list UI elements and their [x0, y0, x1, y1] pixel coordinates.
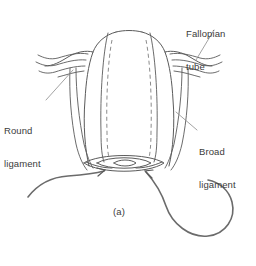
label-broad-ligament: Broad ligament	[199, 124, 236, 212]
label-fallopian-tube-line2: tube	[186, 61, 225, 72]
left-fallopian-tube	[36, 53, 88, 77]
uterus-right-wall	[142, 32, 174, 166]
label-broad-ligament-line1: Broad	[199, 146, 236, 157]
uterus-fundus-top	[116, 31, 142, 33]
uterus-inner-solid-lines	[101, 33, 157, 162]
label-round-ligament-line1: Round	[4, 125, 41, 136]
label-fallopian-tube: Fallopian tube	[186, 6, 225, 94]
label-broad-ligament-line2: ligament	[199, 179, 236, 190]
left-tube-strand-1	[38, 53, 88, 58]
uterus-left-wall	[84, 32, 116, 166]
suture-arrow-right	[145, 170, 153, 178]
cervix-vaginal-cuff	[84, 156, 164, 172]
uterus-dashed-lines	[107, 40, 152, 158]
midline-dashed-incision-right	[146, 40, 151, 158]
figure-caption: (a)	[113, 206, 125, 217]
figure-page: Fallopian tube Round ligament Broad liga…	[0, 0, 256, 266]
label-fallopian-tube-line1: Fallopian	[186, 28, 225, 39]
label-round-ligament: Round ligament	[4, 103, 41, 191]
cervix-inner-os	[114, 160, 136, 166]
label-round-ligament-line2: ligament	[4, 158, 41, 169]
cervix-mid-ring	[97, 158, 151, 169]
leader-round-ligament	[46, 70, 73, 100]
round-ligament-left	[70, 68, 93, 170]
midline-dashed-incision-left	[107, 40, 112, 158]
